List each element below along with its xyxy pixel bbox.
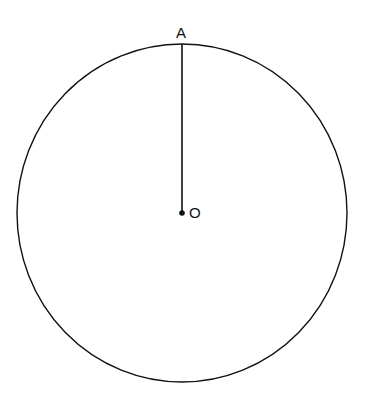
circle-diagram: A O: [0, 0, 365, 410]
label-o: O: [189, 204, 201, 221]
label-a: A: [176, 24, 186, 41]
center-point-o: [179, 210, 185, 216]
